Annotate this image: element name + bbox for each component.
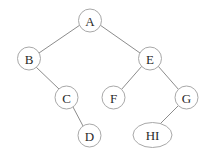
node-f: F [102,86,125,109]
tree-diagram: A B E C F G D HI [0,0,212,157]
node-g: G [175,86,198,109]
node-label: B [25,52,34,67]
node-label: C [62,91,71,106]
node-e: E [139,47,162,70]
edge-c-d [73,107,83,126]
edge-a-e [100,25,140,53]
edge-e-g [158,66,179,90]
node-label: A [85,14,95,29]
node-label: G [182,91,191,106]
edge-e-f [121,66,142,90]
edge-b-c [36,67,59,89]
node-label: F [110,91,117,106]
node-a: A [79,9,102,32]
node-hi: HI [133,123,172,148]
edge-g-hi [160,106,178,124]
node-b: B [18,47,41,70]
node-label: E [146,52,154,67]
edge-a-b [39,25,80,53]
node-c: C [55,86,78,109]
node-label: D [85,129,94,144]
edges [36,25,179,126]
node-label: HI [146,128,160,143]
node-d: D [78,124,101,147]
